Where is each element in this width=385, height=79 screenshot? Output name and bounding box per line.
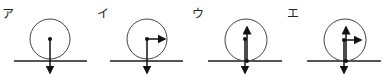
force-diagram-u <box>190 0 286 79</box>
panel-i: イ <box>95 0 191 79</box>
panel-a: ア <box>0 0 96 79</box>
force-diagram-i <box>95 0 191 79</box>
force-diagram-e <box>285 0 385 79</box>
force-diagram-a <box>0 0 96 79</box>
panel-e: エ <box>285 0 381 79</box>
panel-u: ウ <box>190 0 286 79</box>
